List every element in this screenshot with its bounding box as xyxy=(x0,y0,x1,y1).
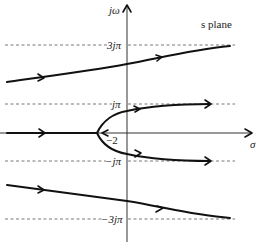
s-plane-title: s plane xyxy=(201,18,232,30)
tick-label-jpi: jπ xyxy=(110,98,121,110)
tick-label-neg-jpi: −jπ xyxy=(105,155,121,167)
real-axis-label: σ xyxy=(250,138,256,150)
labels: jω σ s plane 3jπ jπ −jπ −3jπ −2 xyxy=(101,4,256,225)
tick-label-3jpi: 3jπ xyxy=(106,39,122,51)
branch-upper-outer xyxy=(7,46,230,82)
tick-label-neg-3jpi: −3jπ xyxy=(101,213,123,225)
imaginary-axis-label: jω xyxy=(107,4,120,16)
s-plane-root-locus-diagram: jω σ s plane 3jπ jπ −jπ −3jπ −2 xyxy=(0,0,262,242)
breakaway-label: −2 xyxy=(106,134,118,146)
root-locus-branches xyxy=(7,46,230,218)
axes xyxy=(0,5,252,242)
